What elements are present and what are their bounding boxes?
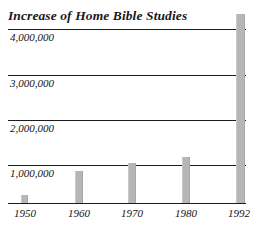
gridline-2000000: [8, 120, 246, 121]
gridline-3000000: [8, 75, 246, 76]
xtick-label-1992: 1992: [228, 207, 250, 219]
bar-1992: [236, 14, 245, 203]
bar-1970: [128, 163, 136, 203]
bar-1950: [21, 195, 28, 203]
xtick-label-1980: 1980: [175, 207, 197, 219]
bar-chart: Increase of Home Bible Studies 4,000,000…: [0, 0, 262, 226]
gridline-1000000: [8, 165, 246, 166]
ytick-label-3000000: 3,000,000: [10, 77, 54, 89]
axis-baseline: [8, 203, 246, 204]
ytick-label-4000000: 4,000,000: [10, 31, 54, 43]
xtick-label-1960: 1960: [68, 207, 90, 219]
plot-area: 4,000,000 3,000,000 2,000,000 1,000,000 …: [0, 0, 262, 226]
ytick-label-1000000: 1,000,000: [10, 167, 54, 179]
bar-1980: [182, 157, 190, 203]
bar-1960: [75, 171, 83, 203]
gridline-4000000: [8, 29, 246, 30]
ytick-label-2000000: 2,000,000: [10, 122, 54, 134]
xtick-label-1950: 1950: [14, 207, 36, 219]
xtick-label-1970: 1970: [121, 207, 143, 219]
